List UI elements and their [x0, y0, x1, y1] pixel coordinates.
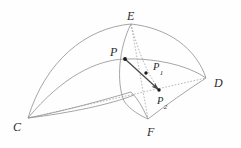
edge-C-E-outer: [28, 24, 131, 118]
label-P: P: [110, 46, 117, 58]
point-P-dot: [123, 57, 127, 61]
edge-E-P-F: [120, 24, 148, 119]
point-P2-dot: [157, 88, 160, 91]
label-P2: P2: [157, 96, 167, 109]
edge-E-P2-dotted: [131, 24, 159, 90]
label-E: E: [127, 10, 134, 22]
label-P1: P1: [153, 62, 163, 75]
label-P1-text: P: [153, 61, 159, 72]
label-C-text: C: [13, 120, 21, 134]
label-P1-subscript: 1: [160, 69, 164, 77]
edge-C-F-lower: [28, 92, 148, 119]
point-P1-dot: [144, 71, 147, 74]
figure-canvas: [0, 0, 241, 148]
surface-outer-boundary: [28, 24, 206, 119]
label-F: F: [147, 126, 154, 138]
label-D: D: [214, 77, 223, 89]
label-P2-subscript: 2: [164, 103, 168, 111]
label-E-text: E: [127, 9, 134, 23]
label-C: C: [13, 121, 21, 133]
geometry-figure: E D C F P P1 P2: [0, 0, 241, 148]
label-D-text: D: [214, 76, 223, 90]
label-F-text: F: [147, 125, 154, 139]
label-P2-text: P: [157, 95, 163, 106]
label-P-text: P: [110, 45, 117, 59]
construction-dotted-lines: [28, 24, 206, 119]
surface-interior-rulings: [28, 24, 206, 119]
edge-E-D-outer: [131, 24, 206, 78]
edge-C-P-D-mid: [28, 59, 206, 118]
